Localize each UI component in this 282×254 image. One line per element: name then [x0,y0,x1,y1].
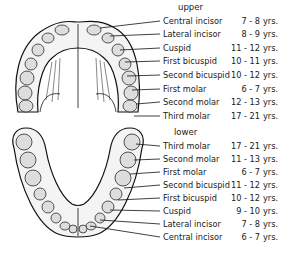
tooth-name: Second molar [163,154,219,164]
age-unit: yrs. [263,232,278,242]
eruption-age: 11 - 12 [224,180,260,190]
lower-row-second-bicuspid: Second bicuspid 11 - 12 yrs. [0,180,282,192]
tooth-name: Second bicuspid [163,70,230,80]
lower-title: lower [174,127,197,137]
upper-row-second-bicuspid: Second bicuspid 10 - 12 yrs. [0,70,282,82]
age-unit: yrs. [263,56,278,66]
eruption-age: 10 - 12 [224,70,260,80]
eruption-age: 7 - 8 [224,16,260,26]
lower-row-central-incisor: Central incisor 6 - 7 yrs. [0,232,282,244]
tooth-name: First bicuspid [163,193,217,203]
age-unit: yrs. [263,206,278,216]
eruption-age: 17 - 21 [224,111,260,121]
lower-row-cuspid: Cuspid 9 - 10 yrs. [0,206,282,218]
tooth-name: Second bicuspid [163,180,230,190]
age-unit: yrs. [263,111,278,121]
lower-row-first-molar: First molar 6 - 7 yrs. [0,167,282,179]
eruption-age: 12 - 13 [224,97,260,107]
lower-row-lateral-incisor: Lateral incisor 7 - 8 yrs. [0,219,282,231]
age-unit: yrs. [263,141,278,151]
age-unit: yrs. [263,154,278,164]
eruption-age: 11 - 12 [224,43,260,53]
tooth-name: Third molar [163,111,210,121]
tooth-name: Lateral incisor [163,219,221,229]
tooth-name: First molar [163,167,206,177]
age-unit: yrs. [263,219,278,229]
upper-row-cuspid: Cuspid 11 - 12 yrs. [0,43,282,55]
age-unit: yrs. [263,43,278,53]
upper-row-second-molar: Second molar 12 - 13 yrs. [0,97,282,109]
eruption-age: 6 - 7 [224,232,260,242]
tooth-name: Third molar [163,141,210,151]
eruption-age: 6 - 7 [224,167,260,177]
tooth-name: Central incisor [163,16,222,26]
upper-row-central-incisor: Central incisor 7 - 8 yrs. [0,16,282,28]
tooth-name: First molar [163,84,206,94]
upper-row-first-molar: First molar 6 - 7 yrs. [0,84,282,96]
tooth-name: Lateral incisor [163,29,221,39]
eruption-age: 6 - 7 [224,84,260,94]
tooth-name: Central incisor [163,232,222,242]
age-unit: yrs. [263,29,278,39]
lower-row-third-molar: Third molar 17 - 21 yrs. [0,141,282,153]
lower-row-first-bicuspid: First bicuspid 10 - 12 yrs. [0,193,282,205]
upper-row-lateral-incisor: Lateral incisor 8 - 9 yrs. [0,29,282,41]
eruption-age: 10 - 12 [224,193,260,203]
eruption-age: 10 - 11 [224,56,260,66]
tooth-name: First bicuspid [163,56,217,66]
tooth-name: Cuspid [163,206,191,216]
age-unit: yrs. [263,180,278,190]
eruption-age: 7 - 8 [224,219,260,229]
age-unit: yrs. [263,16,278,26]
eruption-age: 9 - 10 [224,206,260,216]
eruption-age: 8 - 9 [224,29,260,39]
upper-row-third-molar: Third molar 17 - 21 yrs. [0,111,282,123]
eruption-age: 11 - 13 [224,154,260,164]
tooth-name: Cuspid [163,43,191,53]
age-unit: yrs. [263,193,278,203]
eruption-age: 17 - 21 [224,141,260,151]
tooth-name: Second molar [163,97,219,107]
upper-row-first-bicuspid: First bicuspid 10 - 11 yrs. [0,56,282,68]
tooth-eruption-diagram: upper Central incisor 7 - 8 yrs. Lateral… [0,0,282,254]
age-unit: yrs. [263,70,278,80]
age-unit: yrs. [263,97,278,107]
lower-row-second-molar: Second molar 11 - 13 yrs. [0,154,282,166]
age-unit: yrs. [263,167,278,177]
age-unit: yrs. [263,84,278,94]
upper-title: upper [178,2,203,12]
